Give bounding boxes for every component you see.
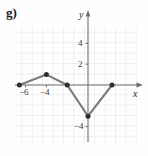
- data-point: [110, 83, 115, 88]
- y-tick-label-minus4: −4: [74, 122, 84, 131]
- x-tick-label-minus6: −6: [19, 88, 29, 97]
- x-axis-label: x: [133, 89, 137, 99]
- x-tick-label-minus4: −4: [40, 88, 50, 97]
- data-point: [44, 72, 49, 77]
- data-point: [86, 114, 91, 119]
- y-tick-label-4: 4: [78, 39, 83, 48]
- coordinate-plot: [0, 0, 148, 156]
- data-point: [65, 83, 70, 88]
- y-tick-label-2: 2: [78, 60, 83, 69]
- y-axis-label: y: [79, 10, 83, 20]
- figure-panel: g): [0, 0, 148, 156]
